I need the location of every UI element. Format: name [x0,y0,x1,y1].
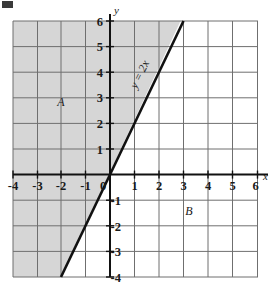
x-tick-label--1: -1 [80,179,90,193]
y-tick-label--4: -4 [111,271,122,285]
y-tick-label--2: -2 [111,220,121,234]
origin-label: 0 [100,179,106,193]
region-label-a: A [56,95,65,109]
region-label-b: B [185,204,193,218]
y-tick-label--3: -3 [111,245,121,259]
x-tick-label-1: 1 [131,179,137,193]
corner-artifact-mark [2,1,13,8]
x-tick-label--4: -4 [8,179,19,193]
y-tick-label--1: -1 [111,194,121,208]
y-tick-label-5: 5 [97,40,103,54]
x-axis-label: x [262,170,268,182]
y-tick-label-4: 4 [97,66,104,80]
x-tick-label-6: 6 [252,179,258,193]
x-tick-label-3: 3 [180,179,186,193]
y-tick-label-2: 2 [97,117,103,131]
x-tick-label-2: 2 [156,179,162,193]
x-tick-label-4: 4 [205,179,212,193]
x-tick-label--2: -2 [56,179,66,193]
coordinate-plane-svg: -4 -3 -2 -1 0 1 2 3 4 5 6 6 5 4 3 2 1 -1… [0,0,274,288]
x-tick-label-5: 5 [229,179,235,193]
y-axis-label: y [113,4,119,16]
x-tick-label--3: -3 [32,179,42,193]
y-tick-label-3: 3 [97,91,103,105]
y-tick-label-1: 1 [97,143,103,157]
y-tick-label-6: 6 [97,15,103,29]
graph-figure: -4 -3 -2 -1 0 1 2 3 4 5 6 6 5 4 3 2 1 -1… [0,0,274,288]
